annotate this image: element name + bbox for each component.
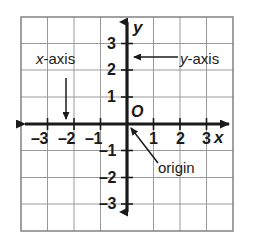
x-tick-label-1: 1 (149, 131, 157, 147)
x-axis-letter-label: x (214, 129, 223, 146)
x-tick-label-minus-1: –1 (85, 131, 102, 147)
x-axis-callout-rest-part: -axis (44, 50, 76, 67)
x-axis-callout-italic-part: x (36, 50, 44, 67)
coordinate-plane-graphic (0, 0, 254, 248)
x-tick-label-2: 2 (176, 131, 184, 147)
y-axis-callout-italic-part: y (180, 50, 188, 67)
origin-callout-label: origin (158, 160, 195, 175)
coordinate-plane-figure: y x O 3 2 1 –1 –2 –3 –3 –2 –1 1 2 3 x-ax… (0, 0, 254, 248)
y-tick-label-2: 2 (107, 62, 115, 78)
origin-symbol-label: O (131, 104, 143, 120)
y-axis-callout-rest-part: -axis (188, 50, 220, 67)
y-tick-label-minus-3: –3 (99, 196, 116, 212)
x-tick-label-minus-2: –2 (58, 131, 75, 147)
x-axis-callout-label: x-axis (36, 51, 75, 66)
y-axis-callout-label: y-axis (180, 51, 219, 66)
x-tick-label-minus-3: –3 (31, 131, 48, 147)
y-tick-label-1: 1 (107, 89, 115, 105)
y-tick-label-minus-2: –2 (99, 170, 116, 186)
y-tick-label-3: 3 (107, 36, 115, 52)
x-tick-label-3: 3 (202, 131, 210, 147)
y-axis-letter-label: y (133, 19, 142, 36)
